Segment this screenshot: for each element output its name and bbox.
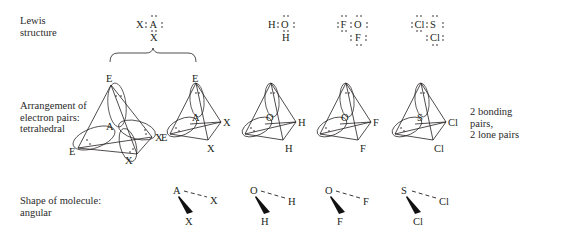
atom-label: E [161, 132, 167, 143]
wedge-bond [255, 196, 270, 214]
atom-label: A [173, 185, 181, 196]
atom-label: S [401, 185, 407, 196]
atom-label: X [223, 117, 231, 128]
shape-sulfur-dichloride: S Cl Cl [401, 185, 449, 227]
atom-label: Cl [430, 32, 440, 43]
atom-label: Cl [448, 117, 458, 128]
atom-label: F [363, 196, 369, 207]
atom-label: O [250, 185, 258, 196]
atom-label: X [185, 216, 193, 227]
atom-label: Cl [439, 196, 449, 207]
atom-label: E [192, 73, 198, 84]
atom-label: F [337, 216, 343, 227]
lewis-structure-water: H O H [268, 15, 295, 43]
tetrahedron-water: H H O [239, 82, 306, 154]
lewis-structure-generic: X A X [136, 15, 163, 43]
atom-label: F [355, 32, 361, 43]
atom-label: E [106, 73, 112, 84]
tetrahedron-generic: E E X X A [161, 73, 231, 154]
wedge-bond [406, 196, 421, 214]
atom-label: S [430, 19, 436, 30]
atom-label: Cl [413, 216, 423, 227]
atom-label: F [341, 19, 347, 30]
atom-label: H [298, 117, 306, 128]
shape-water: O H H [250, 185, 296, 227]
shape-oxygen-difluoride: O F F [325, 185, 369, 227]
atom-label: Cl [434, 143, 444, 154]
atom-label: O [281, 19, 289, 30]
atom-label: X [210, 195, 218, 206]
lewis-structure-sulfur-dichloride: Cl S Cl [411, 15, 444, 46]
atom-label: X [150, 32, 158, 43]
atom-label: O [325, 185, 333, 196]
shape-generic: A X X [173, 185, 218, 227]
molecular-geometry-diagram: X A X H O H F O F Cl S [0, 0, 570, 238]
atom-label: H [282, 32, 290, 43]
tetrahedron-sulfur-dichloride: Cl Cl S [389, 82, 458, 154]
atom-label: X [136, 19, 144, 30]
atom-label: A [150, 19, 158, 30]
atom-label: F [360, 143, 366, 154]
atom-label: H [261, 216, 269, 227]
atom-label: X [207, 143, 215, 154]
curly-brace [110, 48, 196, 62]
lewis-structure-oxygen-difluoride: F O F [337, 15, 368, 46]
wedge-bond [178, 196, 193, 214]
atom-label: Cl [415, 19, 425, 30]
atom-label: O [354, 19, 362, 30]
atom-label: F [373, 117, 379, 128]
atom-label: X [125, 155, 133, 166]
tetrahedron-generic-large: E E X X A [69, 73, 163, 166]
atom-label: H [285, 143, 293, 154]
atom-label: H [268, 19, 276, 30]
tetrahedron-oxygen-difluoride: F F O [314, 82, 379, 154]
atom-label: H [288, 196, 296, 207]
wedge-bond [330, 196, 345, 214]
